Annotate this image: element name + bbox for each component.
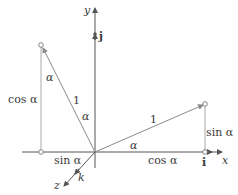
rotation-diagram: y x z i j k 1 α cos α sin α 1 α α cos α … <box>0 0 238 195</box>
i-label: i <box>202 156 206 169</box>
z-axis-label: z <box>53 179 60 192</box>
right-angle-label: α <box>130 139 138 152</box>
left-endpoint <box>39 43 44 48</box>
right-foot <box>203 150 208 155</box>
j-label: j <box>98 30 103 43</box>
left-cos-label: cos α <box>8 93 38 106</box>
k-label: k <box>78 171 85 184</box>
j-dot <box>93 32 97 36</box>
left-angle-origin-label: α <box>82 110 90 123</box>
left-hypotenuse-label: 1 <box>73 94 80 107</box>
right-hypotenuse-label: 1 <box>150 113 157 126</box>
right-unit-vector <box>95 105 203 152</box>
x-axis-label: x <box>222 154 229 167</box>
left-sin-label: sin α <box>54 154 82 167</box>
left-angle-top-label: α <box>46 71 54 84</box>
right-cos-label: cos α <box>148 154 178 167</box>
y-axis-label: y <box>83 4 91 17</box>
left-foot <box>39 150 44 155</box>
left-unit-vector <box>43 48 95 152</box>
right-sin-label: sin α <box>206 126 234 139</box>
right-endpoint <box>203 102 208 107</box>
diagram-canvas: y x z i j k 1 α cos α sin α 1 α α cos α … <box>0 0 238 195</box>
